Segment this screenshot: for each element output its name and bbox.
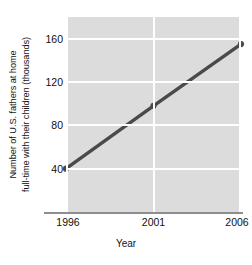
y-axis-tick-label: 160 (45, 33, 63, 44)
x-axis-tick-label: 2001 (142, 216, 165, 228)
y-axis-tick-label: 40 (51, 163, 63, 174)
chart-figure: Number of U.S. fathers at home full-time… (0, 0, 252, 265)
y-axis-title-line-2: full-time with their children (thousands… (20, 36, 33, 191)
y-axis-title: Number of U.S. fathers at home full-time… (0, 0, 40, 228)
x-axis-tick-label: 1996 (56, 216, 79, 228)
plot-area (66, 17, 241, 212)
y-axis-tick-labels: 1601208040 (40, 0, 64, 228)
x-axis-line (44, 212, 243, 214)
vertical-gridline (239, 17, 241, 212)
y-axis-tick-label: 120 (45, 77, 63, 88)
y-axis-title-line-1: Number of U.S. fathers at home (8, 36, 21, 191)
y-axis-title-text: Number of U.S. fathers at home full-time… (8, 36, 33, 191)
y-axis-tick-label: 80 (51, 120, 63, 131)
x-axis-title: Year (0, 238, 252, 250)
x-axis-tick-labels: 199620012006 (0, 216, 252, 232)
vertical-gridline (66, 17, 68, 212)
x-axis-tick-label: 2006 (225, 216, 248, 228)
vertical-gridline (153, 17, 155, 212)
